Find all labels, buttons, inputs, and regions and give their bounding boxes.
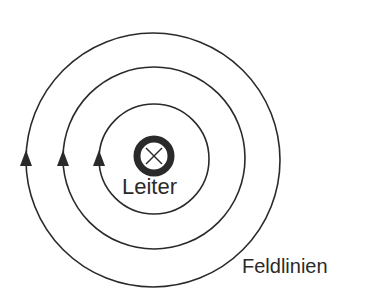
field-lines-label: Feldlinien bbox=[242, 255, 328, 278]
field-diagram bbox=[0, 0, 365, 294]
conductor-label: Leiter bbox=[122, 174, 177, 200]
arrow-up-icon bbox=[57, 150, 69, 166]
arrow-up-icon bbox=[93, 150, 105, 166]
conductor-cross-icon bbox=[137, 139, 171, 173]
field-line-middle bbox=[63, 67, 245, 249]
arrow-up-icon bbox=[20, 150, 32, 166]
